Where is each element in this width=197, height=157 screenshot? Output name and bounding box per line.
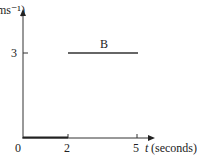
x-axis-variable: t: [145, 141, 149, 155]
x-tick-label-2: 2: [64, 141, 70, 155]
x-axis-unit: (seconds): [151, 141, 197, 155]
y-axis-label: ms⁻¹): [0, 3, 25, 17]
y-tick-label-3: 3: [11, 46, 17, 60]
x-tick-label-5: 5: [133, 141, 139, 155]
x-tick-label-0: 0: [15, 141, 21, 155]
series-label-b: B: [100, 37, 108, 51]
velocity-time-graph: ms⁻¹) 3 0 2 5 t (seconds) B: [0, 0, 197, 157]
